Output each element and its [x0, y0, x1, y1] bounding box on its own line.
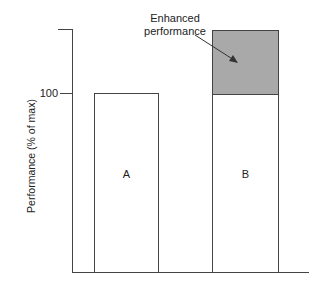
annotation-arrow-icon — [0, 0, 319, 289]
